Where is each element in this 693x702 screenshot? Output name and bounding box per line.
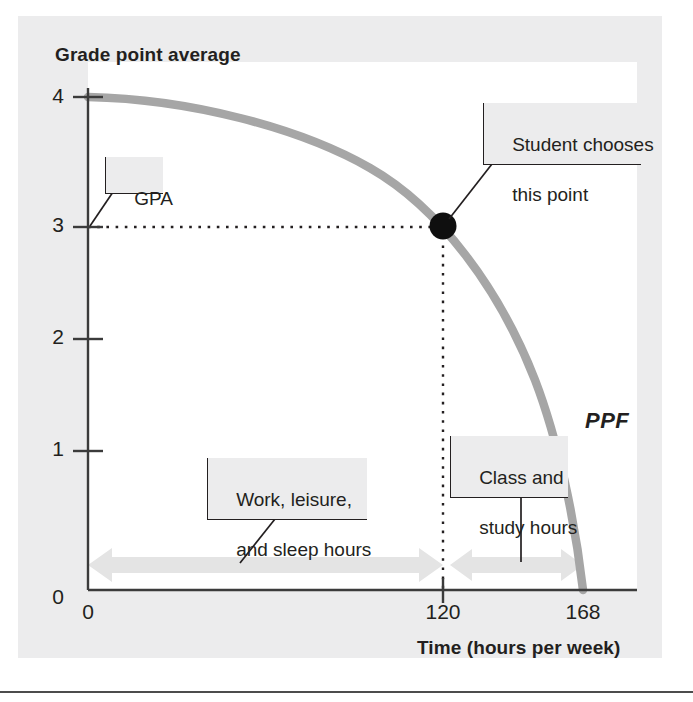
work-leisure-callout-line1: Work, leisure, <box>236 489 352 510</box>
x-tick-label-120: 120 <box>408 600 478 624</box>
y-tick-label-4: 4 <box>38 84 64 108</box>
chosen-point-callout-line1: Student chooses <box>512 134 654 155</box>
figure-bottom-rule <box>0 691 693 693</box>
gpa-callout: GPA <box>105 157 163 194</box>
x-tick-label-0: 0 <box>53 600 123 624</box>
work-leisure-sleep-callout: Work, leisure, and sleep hours <box>207 458 367 520</box>
y-tick-label-3: 3 <box>38 213 64 237</box>
class-study-callout: Class and study hours <box>450 436 568 498</box>
chosen-point-callout: Student chooses this point <box>483 103 641 165</box>
x-axis-title: Time (hours per week) <box>417 637 620 659</box>
chosen-point-callout-line2: this point <box>512 184 588 205</box>
ppf-curve-label: PPF <box>585 408 629 434</box>
work-leisure-callout-line2: and sleep hours <box>236 539 371 560</box>
chosen-point-leader-line <box>449 164 492 219</box>
class-study-callout-line1: Class and <box>479 467 564 488</box>
gpa-callout-text: GPA <box>134 188 173 209</box>
class-study-span-arrow <box>450 549 583 581</box>
class-study-callout-line2: study hours <box>479 517 577 538</box>
ppf-figure: Grade point average Time (hours per week… <box>0 0 693 702</box>
y-tick-label-1: 1 <box>38 437 64 461</box>
y-axis-title: Grade point average <box>55 44 241 66</box>
x-tick-label-168: 168 <box>548 600 618 624</box>
y-tick-label-2: 2 <box>38 325 64 349</box>
chosen-point-marker <box>430 213 457 240</box>
gpa-leader-line <box>90 192 113 226</box>
